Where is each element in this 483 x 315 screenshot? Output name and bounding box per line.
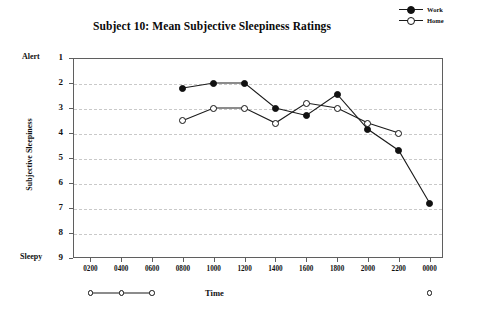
data-point-home[interactable] [395, 130, 402, 137]
data-point-home[interactable] [241, 105, 248, 112]
data-point-work[interactable] [334, 91, 341, 98]
data-point-home-offscale[interactable] [119, 290, 125, 296]
data-point-work[interactable] [272, 105, 279, 112]
data-point-work[interactable] [426, 200, 433, 207]
data-point-home-offscale[interactable] [88, 290, 94, 296]
data-point-home[interactable] [364, 120, 371, 127]
data-point-home[interactable] [210, 105, 217, 112]
data-point-work[interactable] [303, 112, 310, 119]
data-point-home-offscale[interactable] [149, 290, 155, 296]
data-point-work[interactable] [241, 80, 248, 87]
data-point-work[interactable] [179, 85, 186, 92]
data-point-home-offscale[interactable] [427, 290, 433, 296]
data-point-home[interactable] [334, 105, 341, 112]
data-point-work[interactable] [210, 80, 217, 87]
series-lines-layer [0, 0, 483, 315]
sleepiness-chart: Subject 10: Mean Subjective Sleepiness R… [0, 0, 483, 315]
data-point-home[interactable] [303, 100, 310, 107]
data-point-home[interactable] [272, 120, 279, 127]
